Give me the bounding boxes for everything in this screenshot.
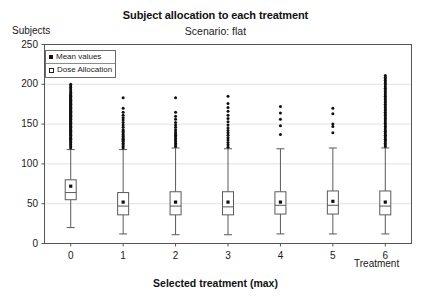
y-tick-0: 0 <box>4 238 38 249</box>
box-plot-0 <box>65 83 76 228</box>
boxplot-chart: Subject allocation to each treatment Sce… <box>0 0 431 297</box>
box-plot-3 <box>223 95 234 235</box>
x-tick-0: 0 <box>56 250 86 261</box>
x-tick-2: 2 <box>161 250 191 261</box>
y-tick-200: 200 <box>4 78 38 89</box>
open-square-icon <box>49 68 54 73</box>
legend-label-mean-values: Mean values <box>56 52 101 62</box>
y-tick-100: 100 <box>4 158 38 169</box>
x-tick-3: 3 <box>213 250 243 261</box>
x-tick-4: 4 <box>265 250 295 261</box>
legend-divider <box>46 63 115 64</box>
legend-item-mean-values: Mean values <box>49 52 112 62</box>
box-plot-6 <box>380 74 391 234</box>
y-tick-250: 250 <box>4 39 38 50</box>
y-tick-50: 50 <box>4 198 38 209</box>
chart-subtitle: Scenario: flat <box>0 25 431 37</box>
box-plot-1 <box>118 96 129 234</box>
legend-item-dose-allocation: Dose Allocation <box>49 65 112 75</box>
x-axis-caption: Selected treatment (max) <box>0 277 431 289</box>
x-tick-5: 5 <box>318 250 348 261</box>
y-axis-label: Subjects <box>12 25 50 36</box>
box-plot-2 <box>170 96 181 234</box>
chart-legend: Mean values Dose Allocation <box>45 50 116 78</box>
filled-square-icon <box>49 55 53 59</box>
box-plot-5 <box>327 107 338 234</box>
x-tick-1: 1 <box>108 250 138 261</box>
chart-title: Subject allocation to each treatment <box>0 9 431 21</box>
x-tick-6: 6 <box>370 250 400 261</box>
legend-label-dose-allocation: Dose Allocation <box>57 65 112 75</box>
y-tick-150: 150 <box>4 118 38 129</box>
